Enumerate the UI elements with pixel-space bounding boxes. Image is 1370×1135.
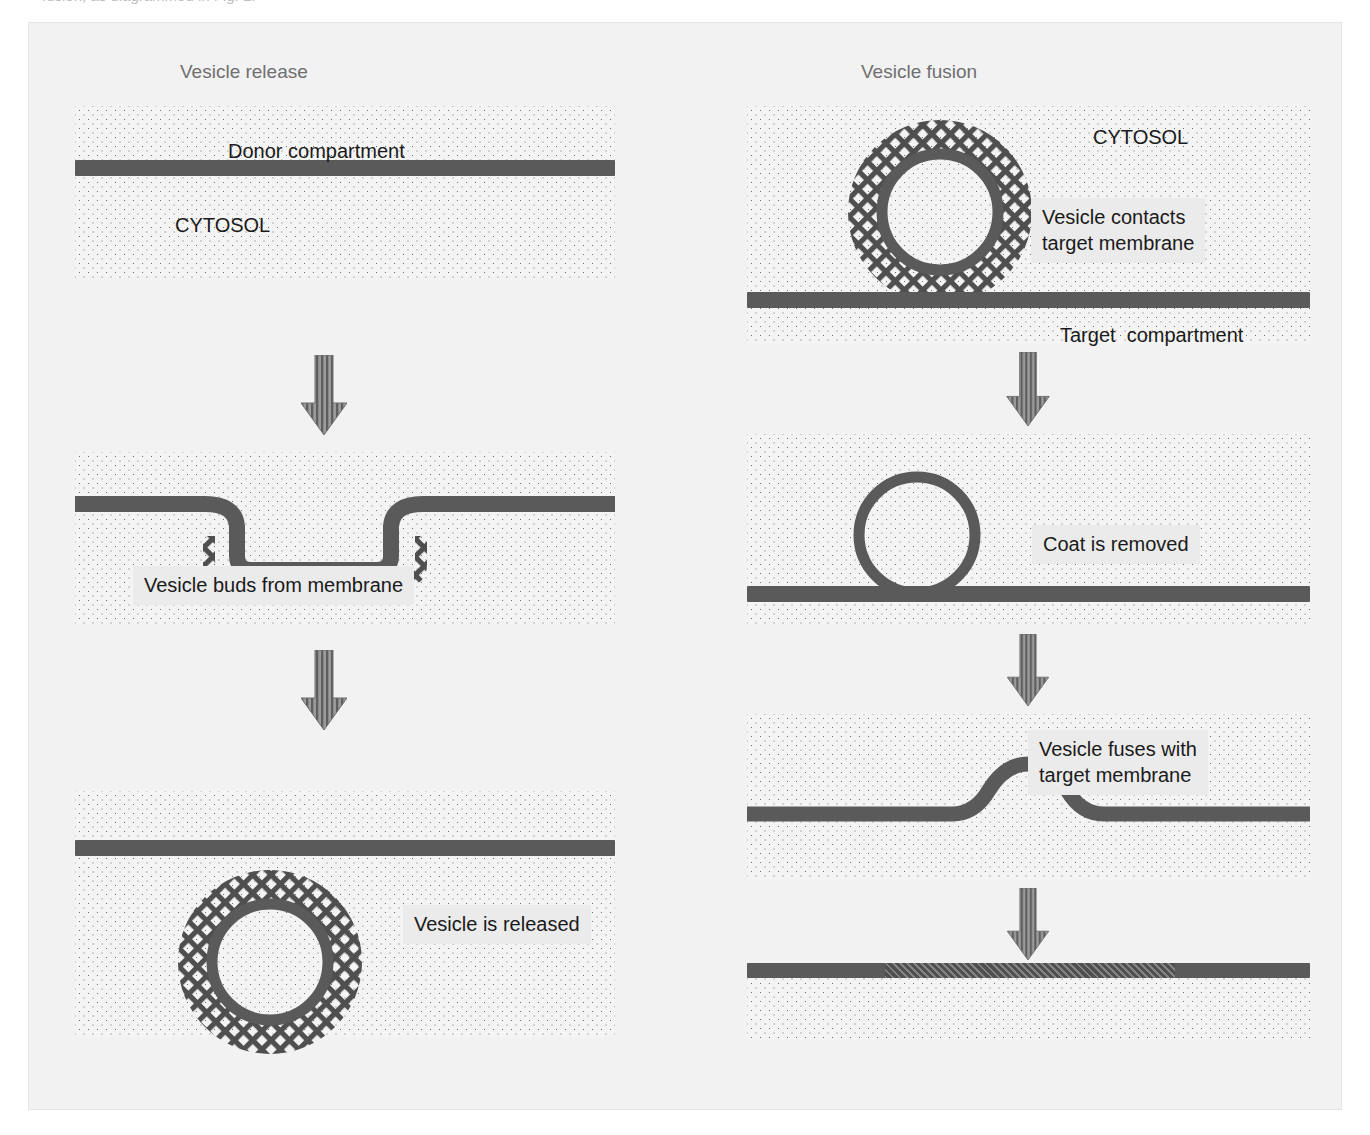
uncoated-vesicle — [852, 470, 982, 600]
label-cytosol-left: CYTOSOL — [175, 212, 270, 238]
label-vesicle-buds-from-membrane: Vesicle buds from membrane — [133, 566, 414, 605]
target-membrane-bar — [747, 292, 1310, 308]
down-arrow-icon — [1005, 634, 1051, 706]
cropped-caption-strip: fusion, as diagrammed in Fig. 1. — [0, 0, 1370, 16]
panel-donor-membrane-flat — [75, 106, 615, 278]
column-heading-vesicle-release: Vesicle release — [180, 61, 308, 83]
label-donor-compartment: Donor compartment — [228, 138, 405, 164]
coated-vesicle-contacting — [840, 112, 1040, 312]
label-coat-is-removed: Coat is removed — [1032, 525, 1200, 564]
label-target-compartment: Target compartment — [1060, 322, 1243, 348]
label-line-2: target membrane — [1039, 764, 1191, 786]
donor-membrane-bar-after-release — [75, 840, 615, 856]
down-arrow-icon — [301, 355, 347, 435]
label-line-1: Vesicle contacts — [1042, 206, 1185, 228]
column-heading-vesicle-fusion: Vesicle fusion — [861, 61, 977, 83]
down-arrow-icon — [301, 650, 347, 730]
label-vesicle-contacts-target-membrane: Vesicle contactstarget membrane — [1031, 198, 1205, 263]
label-line-2: target membrane — [1042, 232, 1194, 254]
panel-membrane-incorporated — [747, 970, 1310, 1040]
label-vesicle-fuses-with-target-membrane: Vesicle fuses withtarget membrane — [1028, 730, 1208, 795]
down-arrow-icon — [1005, 888, 1051, 960]
label-line-1: Vesicle fuses with — [1039, 738, 1197, 760]
cropped-caption-text: fusion, as diagrammed in Fig. 1. — [42, 0, 255, 4]
figure-page: fusion, as diagrammed in Fig. 1. Vesicle… — [0, 0, 1370, 1135]
label-cytosol-right: CYTOSOL — [1093, 124, 1188, 150]
down-arrow-icon — [1005, 352, 1051, 426]
incorporated-vesicle-membrane-segment — [885, 963, 1175, 978]
coated-vesicle-released — [170, 862, 370, 1062]
target-membrane-bar-uncoated-step — [747, 586, 1310, 602]
label-vesicle-is-released: Vesicle is released — [403, 905, 591, 944]
